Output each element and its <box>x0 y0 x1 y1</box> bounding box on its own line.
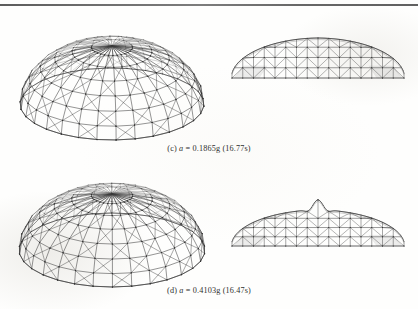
panel-d-caption-time: (16.47s) <box>223 286 251 295</box>
panel-d-elevation-view <box>222 176 414 304</box>
panel-d-isometric-view <box>8 154 220 282</box>
figure-panel-d <box>0 152 418 280</box>
page-top-rule <box>0 4 418 6</box>
figure-page: (c) a = 0.1865g (16.77s) (d) a = 0.4103g… <box>0 0 418 309</box>
panel-d-caption: (d) a = 0.4103g (16.47s) <box>0 286 418 295</box>
panel-c-elevation-view <box>222 8 414 136</box>
figure-panel-c <box>0 8 418 136</box>
panel-d-caption-variable: a <box>179 286 183 295</box>
panel-d-caption-label: (d) <box>167 286 177 295</box>
panel-d-caption-equals: = <box>186 286 191 295</box>
panel-d-caption-value: 0.4103g <box>193 286 221 295</box>
panel-c-isometric-view <box>8 8 220 136</box>
